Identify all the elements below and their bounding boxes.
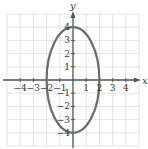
y-tick-label: 4 <box>64 22 70 32</box>
x-tick-label: 1 <box>83 83 89 93</box>
x-tick-label: −2 <box>40 83 53 93</box>
y-axis-label: y <box>69 0 76 11</box>
x-tick-label: 3 <box>110 83 116 93</box>
y-tick-label: 1 <box>64 62 70 72</box>
x-tick-label: −3 <box>27 83 41 93</box>
y-tick-label: 2 <box>64 49 70 59</box>
x-axis-arrow-icon <box>134 78 141 83</box>
ellipse-graph: −4−3−2−11234−4−3−2−11234 x y <box>0 0 148 149</box>
y-axis-arrow-icon <box>71 11 76 18</box>
x-axis-label: x <box>142 75 148 86</box>
x-tick-label: 4 <box>123 83 129 93</box>
y-tick-label: −4 <box>57 128 71 138</box>
x-tick-label: 2 <box>97 83 103 93</box>
y-tick-label: −2 <box>57 101 70 111</box>
y-tick-label: −1 <box>57 88 70 98</box>
axes <box>3 11 141 148</box>
y-tick-label: −3 <box>57 115 71 125</box>
y-tick-label: 3 <box>64 35 70 45</box>
x-tick-label: −4 <box>14 83 28 93</box>
